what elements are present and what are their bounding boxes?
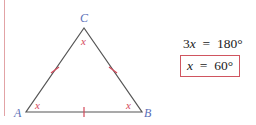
tick-side-ac — [51, 67, 59, 73]
answer-box: x = 60° — [180, 55, 240, 77]
vertex-label-a: A — [13, 106, 22, 120]
equals-sign: = — [200, 58, 208, 73]
rhs-value: 180° — [217, 36, 243, 51]
rhs-value: 60° — [214, 58, 233, 73]
equation-answer: x = 60° — [187, 58, 233, 74]
vertex-label-b: B — [144, 106, 152, 120]
angle-label-c: x — [80, 35, 86, 47]
variable: x — [187, 58, 193, 73]
equation-sum: 3x = 180° — [183, 36, 243, 52]
coefficient: 3 — [183, 36, 190, 51]
angle-label-a: x — [34, 99, 40, 111]
equals-sign: = — [203, 36, 211, 51]
angle-label-b: x — [125, 99, 131, 111]
variable: x — [190, 36, 196, 51]
vertex-label-c: C — [80, 11, 89, 25]
tick-side-bc — [109, 67, 117, 73]
